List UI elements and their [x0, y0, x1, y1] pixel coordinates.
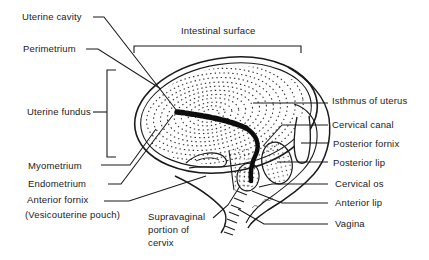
label-uterine-fundus: Uterine fundus: [27, 106, 91, 117]
label-cervical-canal: Cervical canal: [332, 119, 394, 130]
leader-supravaginal-cervix: [213, 186, 240, 218]
vaginal-rugae: [224, 191, 247, 235]
label-cervical-os: Cervical os: [335, 178, 384, 189]
leader-perimetrium: [86, 49, 161, 89]
label-vagina: Vagina: [335, 218, 365, 229]
label-supravaginal-line2: portion of: [148, 224, 189, 235]
label-posterior-lip: Posterior lip: [333, 157, 385, 168]
label-posterior-fornix: Posterior fornix: [333, 138, 399, 149]
intestinal-surface-bracket: [134, 46, 301, 53]
label-isthmus-of-uterus: Isthmus of uterus: [332, 95, 407, 106]
label-supravaginal-line1: Supravaginal: [148, 211, 205, 222]
label-vesicouterine-pouch: (Vesicouterine pouch): [25, 209, 120, 220]
label-myometrium: Myometrium: [28, 160, 82, 171]
leader-cervical-os: [259, 184, 328, 187]
label-supravaginal-line3: cervix: [148, 237, 174, 248]
anatomy-figure: Intestinal surface Uterine cavity Perime…: [0, 0, 429, 260]
posterior-fornix-fold: [294, 116, 310, 163]
leader-anterior-fornix: [104, 176, 206, 201]
label-perimetrium: Perimetrium: [23, 43, 76, 54]
label-uterine-cavity: Uterine cavity: [22, 11, 82, 22]
label-anterior-fornix: Anterior fornix: [27, 194, 88, 205]
leader-vagina: [238, 209, 328, 224]
label-intestinal-surface: Intestinal surface: [181, 25, 256, 36]
uterine-fundus-bracket: [93, 70, 116, 157]
label-endometrium: Endometrium: [28, 178, 86, 189]
label-anterior-lip: Anterior lip: [335, 197, 382, 208]
